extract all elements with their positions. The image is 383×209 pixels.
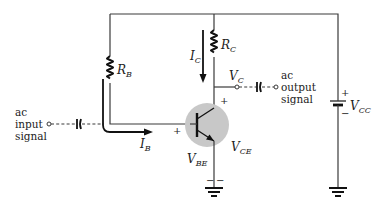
output-label-line1: ac <box>281 69 293 81</box>
ic-label: IC <box>189 49 201 65</box>
input-terminal <box>47 122 51 126</box>
output-label-line3: signal <box>281 93 313 105</box>
rb-label: RB <box>116 63 132 79</box>
vbe-plus-sign: + <box>173 125 181 136</box>
rc-label: RC <box>220 38 236 54</box>
vbe-label: VBE <box>187 152 208 168</box>
vcc-label: VCC <box>350 99 371 115</box>
ic-arrow-icon <box>200 74 207 83</box>
rc-resistor <box>211 30 217 53</box>
transistor-highlight <box>185 103 229 147</box>
circuit-diagram: RB RC IC IB VC + + VBE VCE − − + − VCC a… <box>0 0 383 209</box>
input-label-line2: input <box>15 118 44 130</box>
ib-label: IB <box>139 137 151 153</box>
ib-arrow-icon <box>144 129 153 136</box>
output-label-line2: output <box>281 81 317 93</box>
vc-label: VC <box>229 69 244 85</box>
output-capacitor-plate2 <box>260 82 261 92</box>
vcc-minus-sign: − <box>341 108 349 119</box>
vcc-plus-sign: + <box>341 87 349 98</box>
base-wire <box>110 83 190 124</box>
vce-label: VCE <box>231 140 252 156</box>
input-label-line1: ac <box>15 106 27 118</box>
emitter-minus-sign-1: − <box>206 175 214 186</box>
vc-terminal <box>235 85 239 89</box>
output-terminal <box>274 85 278 89</box>
emitter-minus-sign-2: − <box>216 175 224 186</box>
input-capacitor-plate2 <box>80 119 81 129</box>
input-label-line3: signal <box>15 130 47 142</box>
rb-resistor <box>107 56 113 79</box>
vc-plus-sign: + <box>220 95 228 106</box>
